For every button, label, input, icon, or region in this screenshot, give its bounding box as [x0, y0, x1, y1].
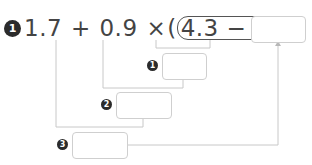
problem-number: 1 [9, 22, 17, 35]
step-2-number: 2 [104, 100, 110, 109]
step-3-box[interactable] [72, 132, 128, 159]
plus-operator: + [71, 14, 91, 42]
step-1-number: 1 [150, 61, 156, 70]
answer-box[interactable] [251, 16, 306, 43]
step-1-badge: 1 [147, 60, 158, 71]
step-3-number: 3 [60, 140, 66, 149]
paren-open: ( [167, 14, 176, 42]
term-b: 0.9 [99, 14, 137, 42]
step-3-badge: 3 [57, 139, 68, 150]
term-a: 1.7 [24, 14, 62, 42]
problem-number-badge: 1 [4, 20, 21, 37]
times-operator: × [146, 14, 166, 42]
step-2-box[interactable] [116, 92, 172, 119]
step-2-badge: 2 [101, 99, 112, 110]
step-1-box[interactable] [162, 53, 207, 80]
